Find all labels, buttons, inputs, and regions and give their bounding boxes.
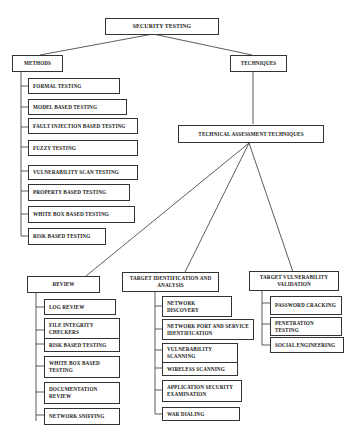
method-item: VULNERABILITY SCAN TESTING — [28, 165, 138, 180]
target-validation-node: TARGET VULNERABILITY VALIDATION — [249, 271, 339, 291]
target-identification-item: APPLICATION SECURITY EXAMINATION — [162, 380, 242, 402]
target-identification-item: NETWORK PORT AND SERVICE IDENTIFICATION — [162, 319, 254, 340]
review-item: LOG REVIEW — [44, 299, 116, 315]
target-identification-item: NETWORK DISCOVERY — [162, 296, 232, 317]
method-item: RISK BASED TESTING — [28, 228, 106, 245]
method-item: WHITE BOX BASED TESTING — [28, 206, 135, 223]
technical-assessment-techniques-node: TECHNICAL ASSESSMENT TECHNIQUES — [178, 125, 324, 143]
target-identification-item: WAR DIALING — [162, 407, 240, 421]
root-node-security-testing: SECURITY TESTING — [105, 18, 219, 35]
target-identification-node: TARGET IDENTIFICATION AND ANALYSIS — [122, 272, 219, 292]
review-item: RISK BASED TESTING — [44, 338, 120, 352]
review-item: DOCUMENTATION REVIEW — [44, 382, 120, 404]
method-item: FAULT INJECTION BASED TESTING — [28, 118, 138, 134]
method-item: MODEL BASED TESTING — [28, 99, 127, 115]
target-validation-item: PENETRATION TESTING — [270, 317, 342, 336]
review-item: WHITE BOX BASED TESTING — [44, 356, 120, 378]
review-item: FILE INTEGRITY CHECKERS — [44, 318, 120, 339]
methods-node: METHODS — [12, 55, 63, 72]
techniques-node: TECHNIQUES — [230, 55, 287, 72]
target-validation-item: PASSWORD CRACKING — [270, 296, 342, 315]
method-item: FUZZY TESTING — [28, 140, 138, 156]
method-item: FORMAL TESTING — [28, 78, 120, 94]
method-item: PROPERTY BASED TESTING — [28, 184, 130, 201]
review-item: NETWORK SNIFFING — [44, 408, 120, 425]
target-validation-item: SOCIAL ENGINEERING — [270, 337, 344, 353]
target-identification-item: VULNERABILITY SCANNING — [162, 343, 238, 363]
target-identification-item: WIRELESS SCANNING — [162, 362, 238, 376]
review-node: REVIEW — [27, 276, 100, 293]
security-testing-diagram: SECURITY TESTING METHODS FORMAL TESTING … — [0, 0, 357, 441]
